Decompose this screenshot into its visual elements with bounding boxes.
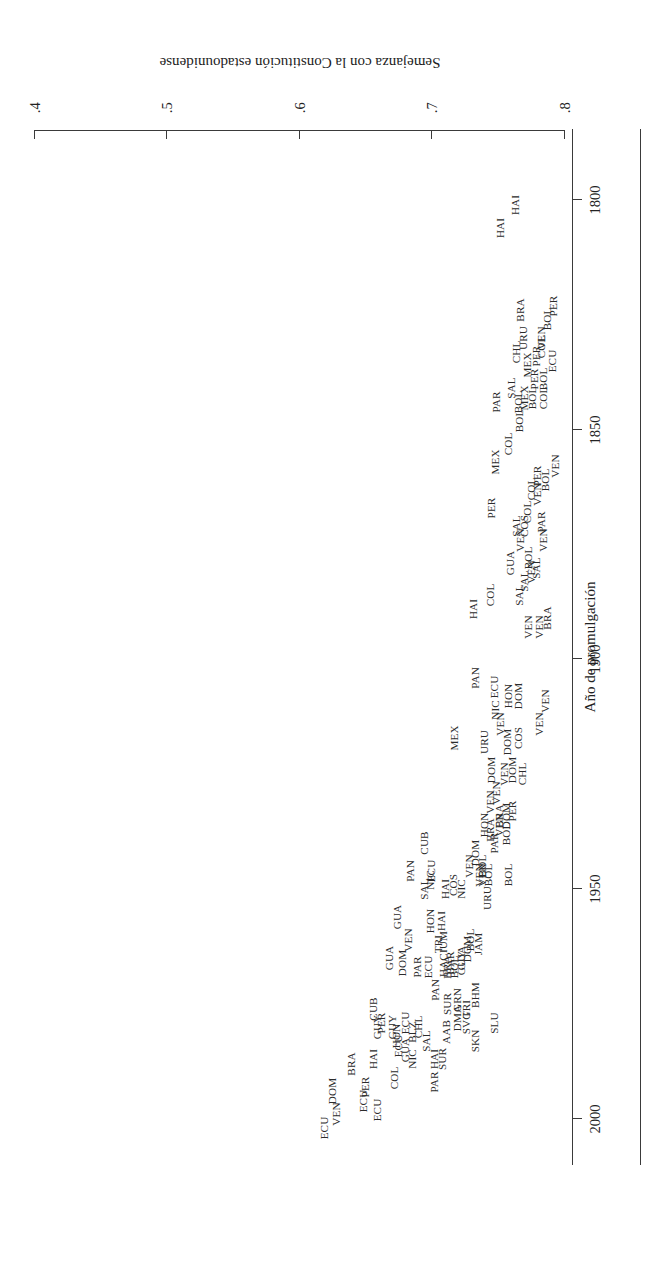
x-axis-title: Año de promulgación: [582, 582, 599, 713]
data-point-label: GUA: [505, 551, 516, 576]
data-point-label: ECU: [320, 1117, 331, 1140]
data-point-label: PAR: [412, 957, 423, 978]
data-point-label: HAI: [496, 217, 507, 237]
data-point-label: VEN: [534, 712, 545, 735]
data-point-label: HON: [504, 684, 515, 709]
data-point-label: DOM: [328, 1078, 339, 1104]
data-point-label: PAN: [431, 980, 442, 1002]
data-point-label: HAI: [430, 1049, 441, 1069]
data-point-label: VEN: [332, 1103, 343, 1126]
similarity-tick-label: .5: [160, 102, 175, 113]
similarity-tick: [564, 130, 565, 139]
year-axis-line: [572, 129, 573, 1165]
year-tick: [573, 1118, 582, 1119]
data-point-label: PAN: [471, 667, 482, 689]
data-point-label: SAL: [512, 516, 523, 537]
year-tick-label: 1850: [588, 415, 603, 444]
similarity-axis-line: [35, 130, 565, 131]
data-point-label: HAI: [440, 879, 451, 899]
data-point-label: BOL: [514, 409, 525, 432]
data-point-label: GUY: [373, 1015, 384, 1040]
year-tick-label: 1950: [588, 875, 603, 904]
data-point-label: CHL: [512, 340, 523, 363]
data-point-label: HAI: [436, 911, 447, 931]
data-point-label: SUR: [443, 993, 454, 1015]
data-point-label: COS: [513, 727, 524, 749]
data-point-label: VEN: [538, 528, 549, 551]
data-point-label: COL: [526, 478, 537, 501]
data-point-label: PAN: [406, 860, 417, 882]
similarity-tick-label: .4: [28, 102, 43, 113]
data-point-label: VEN: [524, 616, 535, 639]
data-point-label: ECU: [358, 1089, 369, 1112]
data-point-label: CHL: [517, 763, 528, 786]
data-point-label: MEX: [491, 449, 502, 474]
year-tick-label: 2000: [588, 1105, 603, 1134]
y-axis-title: Semejanza con la Constitución estadounid…: [160, 54, 441, 71]
year-tick: [573, 429, 582, 430]
similarity-tick-label: .6: [293, 102, 308, 113]
data-point-label: DOM: [513, 683, 524, 709]
data-point-label: VEN: [403, 928, 414, 951]
data-point-label: BRA: [516, 299, 527, 322]
data-point-label: MEX: [449, 725, 460, 750]
similarity-tick: [431, 130, 432, 139]
data-point-label: URU: [480, 730, 491, 754]
scatter-plot: .4.5.6.7.8 18001850190019502000 HAIHAIPE…: [0, 0, 672, 1267]
data-point-label: ECU: [423, 956, 434, 979]
data-point-label: COL: [504, 432, 515, 455]
data-point-label: DOM: [398, 950, 409, 976]
data-point-label: COL: [538, 386, 549, 409]
data-point-label: DMA: [452, 1005, 463, 1031]
similarity-tick: [166, 130, 167, 139]
data-point-label: VEN: [534, 616, 545, 639]
data-point-label: BRA: [346, 1052, 357, 1075]
data-point-label: VEN: [550, 455, 561, 478]
data-point-label: HON: [391, 1024, 402, 1049]
data-point-label: SLU: [489, 1012, 500, 1033]
data-point-label: AAB: [441, 1020, 452, 1044]
data-point-label: HON: [426, 909, 437, 934]
data-point-label: VEN: [541, 689, 552, 712]
year-tick: [573, 888, 582, 889]
data-point-label: CUB: [419, 832, 430, 855]
data-point-label: HAI: [468, 599, 479, 619]
plot-left-frame-line: [640, 129, 641, 1165]
data-point-label: BRA: [443, 956, 454, 979]
data-point-label: DOM: [487, 757, 498, 783]
data-point-label: HAI: [369, 1049, 380, 1069]
data-point-label: NIC: [491, 700, 502, 720]
data-point-label: PAR: [492, 392, 503, 413]
data-point-label: GUA: [392, 905, 403, 930]
data-point-label: HAI: [510, 194, 521, 214]
data-point-label: SAL: [506, 378, 517, 399]
data-point-label: GUA: [385, 946, 396, 971]
similarity-tick-label: .8: [558, 102, 573, 113]
rotated-figure-canvas: .4.5.6.7.8 18001850190019502000 HAIHAIPE…: [0, 0, 672, 1267]
data-point-label: PAR: [430, 1072, 441, 1093]
year-tick-label: 1800: [588, 185, 603, 214]
data-point-label: TRI: [434, 935, 445, 953]
data-point-label: BOL: [504, 864, 515, 887]
data-point-label: SAL: [419, 879, 430, 900]
data-point-label: ECU: [373, 1099, 384, 1122]
similarity-tick: [34, 130, 35, 139]
year-tick: [573, 658, 582, 659]
data-point-label: VEN: [475, 864, 486, 887]
similarity-tick-label: .7: [425, 102, 440, 113]
data-point-label: ECU: [489, 676, 500, 699]
similarity-tick: [299, 130, 300, 139]
data-point-label: COL: [390, 1066, 401, 1089]
data-point-label: COL: [485, 584, 496, 607]
year-tick: [573, 199, 582, 200]
data-point-label: PAR: [489, 833, 500, 854]
data-point-label: PER: [487, 497, 498, 518]
data-point-label: URU: [483, 887, 494, 911]
data-point-label: SAL: [514, 584, 525, 605]
